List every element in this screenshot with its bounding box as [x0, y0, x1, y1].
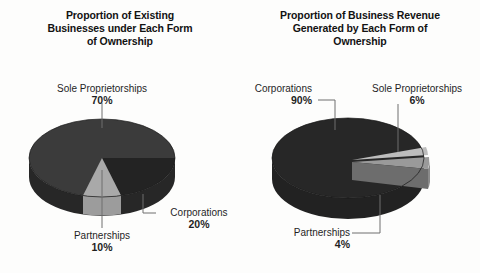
callout-percent-value: 20% [158, 219, 240, 231]
leader-line-corporations [318, 100, 335, 130]
callout-label-text: Partnerships [74, 230, 130, 241]
pie-top-outline [272, 118, 424, 198]
chart-panel-business-revenue: Proportion of Business Revenue Generated… [240, 0, 480, 273]
callout-partnerships: Partnerships 4% [250, 227, 350, 250]
callout-percent-value: 6% [354, 95, 480, 107]
pie-slice-corporations [272, 118, 424, 198]
callout-corporations: Corporations 90% [240, 83, 312, 106]
chart-title-existing-businesses: Proportion of Existing Businesses under … [0, 9, 240, 49]
callout-percent-value: 70% [8, 95, 196, 107]
callout-label-text: Corporations [255, 83, 312, 94]
callout-partnerships: Partnerships 10% [42, 230, 162, 253]
pie-side-wall-exploded [428, 162, 430, 189]
two-pie-chart-figure: Proportion of Existing Businesses under … [0, 0, 480, 273]
leader-line-partnerships [352, 195, 380, 233]
title-line-1: Proportion of Business Revenue [240, 9, 480, 22]
chart-panel-existing-businesses: Proportion of Existing Businesses under … [0, 0, 240, 273]
leader-line-corporations [143, 194, 156, 213]
title-line-2: Businesses under Each Form [0, 22, 240, 35]
pie-side-wall-partnerships [83, 195, 121, 215]
pie-slice-partnerships [352, 157, 429, 169]
pie-slice-corporations [102, 158, 175, 196]
title-line-3: Ownership [240, 35, 480, 48]
callout-label-text: Sole Proprietorships [372, 83, 462, 94]
callout-label-text: Partnerships [294, 227, 350, 238]
callout-percent-value: 90% [240, 95, 312, 107]
pie-slice-sole-proprietorships [352, 147, 428, 160]
title-line-2: Generated by Each Form of [240, 22, 480, 35]
pie-slice-sole-proprietorships [29, 119, 175, 197]
callout-corporations: Corporations 20% [158, 207, 240, 230]
callout-percent-value: 4% [250, 239, 350, 251]
pie-top-outline [29, 119, 175, 197]
pie-side-wall [29, 158, 175, 216]
pie-slice-partnerships [83, 158, 121, 197]
pie-side-wall [272, 158, 424, 219]
chart-title-business-revenue: Proportion of Business Revenue Generated… [240, 9, 480, 49]
callout-percent-value: 10% [42, 242, 162, 254]
title-line-3: of Ownership [0, 35, 240, 48]
callout-sole-proprietorships: Sole Proprietorships 6% [354, 83, 480, 106]
callout-sole-proprietorships: Sole Proprietorships 70% [8, 83, 196, 106]
callout-label-text: Sole Proprietorships [57, 83, 147, 94]
pie-wedge-thickness [352, 162, 428, 189]
callout-label-text: Corporations [170, 207, 227, 218]
title-line-1: Proportion of Existing [0, 9, 240, 22]
